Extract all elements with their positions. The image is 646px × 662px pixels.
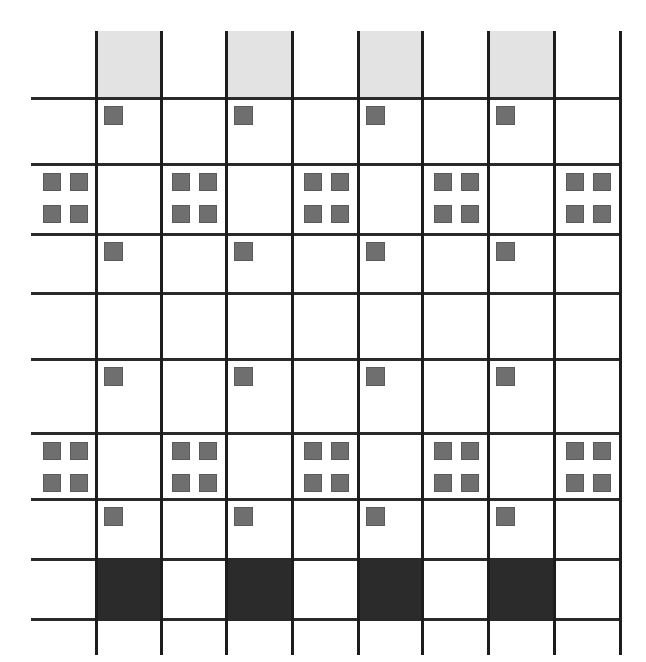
marker-square: [70, 474, 88, 492]
grid-line-horizontal-6: [31, 498, 622, 501]
grid-line-vertical-2: [225, 31, 228, 655]
marker-square: [104, 242, 123, 261]
marker-square: [70, 173, 88, 191]
marker-square: [593, 205, 611, 223]
marker-square: [43, 205, 61, 223]
marker-square: [70, 205, 88, 223]
grid-line-vertical-1: [160, 31, 163, 655]
grid-line-vertical-5: [421, 31, 424, 655]
marker-square: [104, 367, 123, 386]
marker-square: [234, 507, 253, 526]
marker-square: [172, 173, 190, 191]
grid-line-vertical-6: [487, 31, 490, 655]
marker-square: [461, 205, 479, 223]
grid-line-horizontal-3: [31, 292, 622, 295]
marker-square: [366, 507, 385, 526]
grid-line-vertical-3: [291, 31, 294, 655]
marker-square: [593, 442, 611, 460]
marker-square: [199, 173, 217, 191]
marker-square: [496, 242, 515, 261]
marker-square: [43, 474, 61, 492]
shaded-cell: [225, 31, 291, 97]
marker-square: [461, 173, 479, 191]
grid-line-horizontal-4: [31, 358, 622, 361]
marker-square: [172, 474, 190, 492]
marker-square: [199, 205, 217, 223]
filled-cell: [95, 558, 160, 618]
marker-square: [199, 442, 217, 460]
marker-square: [434, 442, 452, 460]
filled-cell: [357, 558, 421, 618]
grid-line-horizontal-0: [31, 97, 622, 100]
marker-square: [331, 173, 349, 191]
marker-square: [566, 474, 584, 492]
marker-square: [304, 474, 322, 492]
marker-square: [366, 367, 385, 386]
grid-line-horizontal-2: [31, 233, 622, 236]
figure-canvas: [0, 0, 646, 662]
filled-cell: [225, 558, 291, 618]
grid-line-vertical-8: [619, 31, 622, 655]
marker-square: [304, 173, 322, 191]
marker-square: [496, 106, 515, 125]
marker-square: [461, 442, 479, 460]
marker-square: [366, 242, 385, 261]
grid-line-vertical-7: [553, 31, 556, 655]
marker-square: [234, 242, 253, 261]
marker-square: [434, 474, 452, 492]
marker-square: [172, 205, 190, 223]
marker-square: [366, 106, 385, 125]
marker-square: [172, 442, 190, 460]
marker-square: [331, 474, 349, 492]
grid-line-horizontal-1: [31, 163, 622, 166]
marker-square: [234, 367, 253, 386]
marker-square: [104, 106, 123, 125]
marker-square: [43, 173, 61, 191]
grid-line-vertical-4: [357, 31, 360, 655]
marker-square: [496, 507, 515, 526]
marker-square: [496, 367, 515, 386]
marker-square: [70, 442, 88, 460]
shaded-cell: [357, 31, 421, 97]
grid-line-horizontal-7: [31, 558, 622, 561]
marker-square: [304, 205, 322, 223]
marker-square: [566, 205, 584, 223]
marker-square: [104, 507, 123, 526]
marker-square: [304, 442, 322, 460]
marker-square: [43, 442, 61, 460]
marker-square: [566, 173, 584, 191]
marker-square: [434, 205, 452, 223]
marker-square: [593, 474, 611, 492]
marker-square: [434, 173, 452, 191]
marker-square: [593, 173, 611, 191]
marker-square: [461, 474, 479, 492]
marker-square: [331, 442, 349, 460]
marker-square: [234, 106, 253, 125]
shaded-cell: [487, 31, 553, 97]
marker-square: [331, 205, 349, 223]
grid-line-horizontal-8: [31, 618, 622, 621]
shaded-cell: [95, 31, 160, 97]
grid-line-vertical-0: [95, 31, 98, 655]
filled-cell: [487, 558, 553, 618]
grid-line-horizontal-5: [31, 432, 622, 435]
marker-square: [566, 442, 584, 460]
marker-square: [199, 474, 217, 492]
